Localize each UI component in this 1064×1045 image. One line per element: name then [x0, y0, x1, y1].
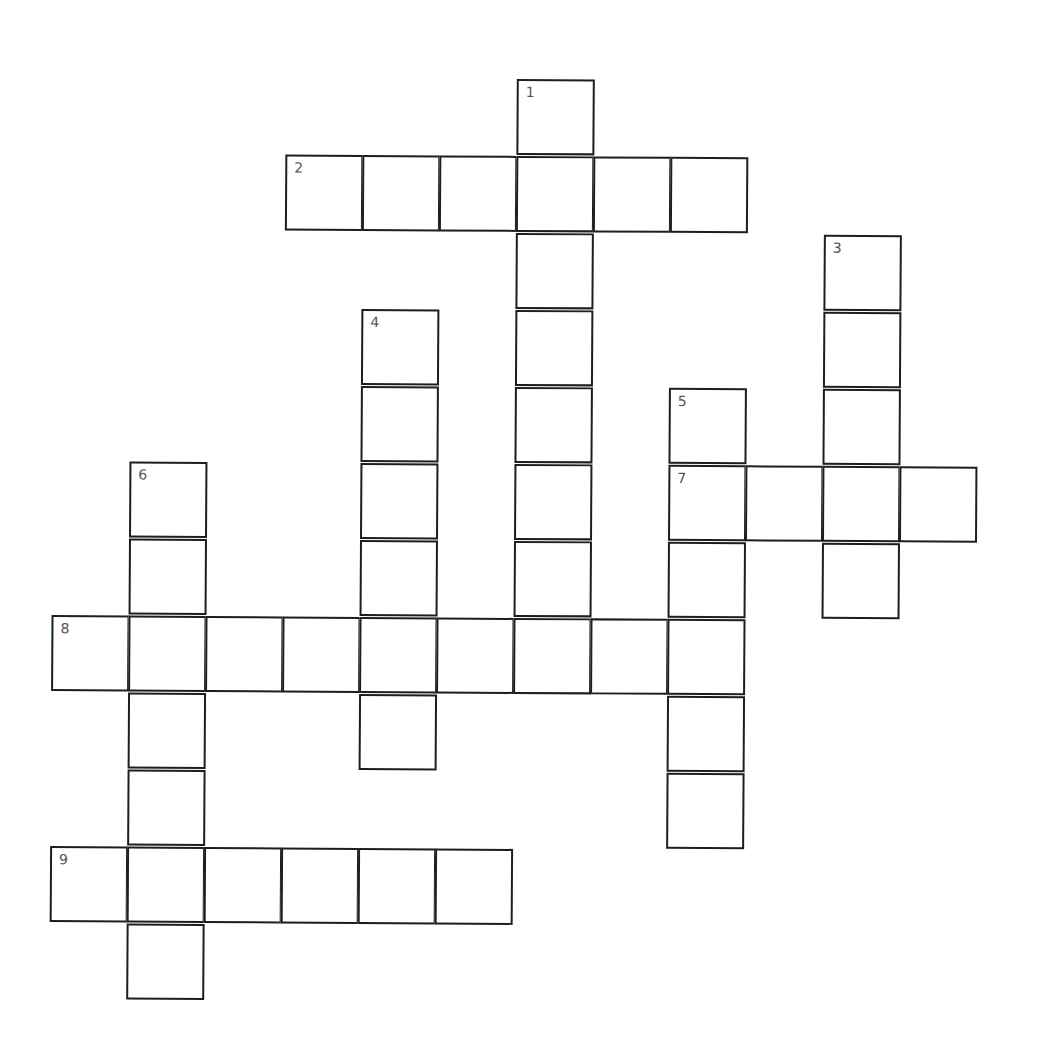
letter-input[interactable]	[592, 620, 666, 692]
grid-cell[interactable]	[128, 693, 206, 769]
letter-input[interactable]	[363, 311, 437, 383]
letter-input[interactable]	[131, 464, 205, 536]
letter-input[interactable]	[283, 849, 357, 921]
letter-input[interactable]	[206, 849, 280, 921]
letter-input[interactable]	[129, 849, 203, 921]
grid-cell[interactable]	[668, 542, 746, 618]
grid-cell[interactable]	[514, 464, 592, 540]
letter-input[interactable]	[672, 159, 746, 231]
letter-input[interactable]	[361, 696, 435, 768]
letter-input[interactable]	[824, 391, 898, 463]
grid-cell[interactable]	[515, 310, 593, 386]
crossword-grid: 278913456	[0, 0, 1064, 1045]
letter-input[interactable]	[131, 541, 205, 613]
grid-cell[interactable]	[822, 389, 900, 465]
letter-input[interactable]	[362, 465, 436, 537]
letter-input[interactable]	[287, 157, 361, 229]
grid-cell[interactable]	[359, 617, 437, 693]
grid-cell[interactable]: 9	[50, 846, 128, 922]
letter-input[interactable]	[129, 772, 203, 844]
grid-cell[interactable]	[590, 618, 668, 694]
grid-cell[interactable]: 7	[668, 465, 746, 541]
letter-input[interactable]	[516, 466, 590, 538]
grid-cell[interactable]	[126, 924, 204, 1000]
letter-input[interactable]	[670, 390, 744, 462]
letter-input[interactable]	[438, 619, 512, 691]
letter-input[interactable]	[130, 695, 204, 767]
grid-cell[interactable]	[129, 539, 207, 615]
grid-cell[interactable]	[128, 616, 206, 692]
grid-cell[interactable]	[205, 616, 283, 692]
letter-input[interactable]	[360, 850, 434, 922]
letter-input[interactable]	[518, 81, 592, 153]
letter-input[interactable]	[824, 545, 898, 617]
letter-input[interactable]	[668, 775, 742, 847]
letter-input[interactable]	[362, 542, 436, 614]
grid-cell[interactable]	[667, 696, 745, 772]
grid-cell[interactable]	[439, 155, 517, 231]
grid-cell[interactable]	[823, 312, 901, 388]
letter-input[interactable]	[518, 158, 592, 230]
grid-cell[interactable]	[515, 233, 593, 309]
grid-cell[interactable]	[359, 694, 437, 770]
letter-input[interactable]	[517, 235, 591, 307]
grid-cell[interactable]: 8	[51, 615, 129, 691]
grid-cell[interactable]	[670, 157, 748, 233]
grid-cell[interactable]	[360, 386, 438, 462]
letter-input[interactable]	[670, 467, 744, 539]
letter-input[interactable]	[53, 617, 127, 689]
grid-cell[interactable]	[514, 541, 592, 617]
letter-input[interactable]	[364, 157, 438, 229]
letter-input[interactable]	[825, 314, 899, 386]
letter-input[interactable]	[362, 388, 436, 460]
letter-input[interactable]	[437, 850, 511, 922]
grid-cell[interactable]: 2	[285, 154, 363, 230]
grid-cell[interactable]	[516, 156, 594, 232]
letter-input[interactable]	[517, 312, 591, 384]
letter-input[interactable]	[207, 618, 281, 690]
letter-input[interactable]	[130, 618, 204, 690]
grid-cell[interactable]	[360, 463, 438, 539]
grid-cell[interactable]	[822, 466, 900, 542]
letter-input[interactable]	[441, 157, 515, 229]
letter-input[interactable]	[669, 698, 743, 770]
grid-cell[interactable]	[281, 847, 359, 923]
grid-cell[interactable]	[358, 848, 436, 924]
grid-cell[interactable]	[593, 156, 671, 232]
letter-input[interactable]	[901, 468, 975, 540]
letter-input[interactable]	[516, 543, 590, 615]
letter-input[interactable]	[516, 389, 590, 461]
grid-cell[interactable]	[666, 773, 744, 849]
grid-cell[interactable]	[282, 616, 360, 692]
letter-input[interactable]	[595, 158, 669, 230]
letter-input[interactable]	[670, 544, 744, 616]
grid-cell[interactable]	[436, 617, 514, 693]
grid-cell[interactable]	[360, 540, 438, 616]
grid-cell[interactable]: 6	[129, 462, 207, 538]
grid-cell[interactable]	[127, 847, 205, 923]
grid-cell[interactable]	[899, 466, 977, 542]
letter-input[interactable]	[825, 237, 899, 309]
letter-input[interactable]	[824, 468, 898, 540]
grid-cell[interactable]	[127, 770, 205, 846]
letter-input[interactable]	[284, 619, 358, 691]
grid-cell[interactable]: 4	[361, 309, 439, 385]
grid-cell[interactable]	[435, 848, 513, 924]
grid-cell[interactable]	[362, 155, 440, 231]
grid-cell[interactable]	[513, 618, 591, 694]
grid-cell[interactable]	[204, 847, 282, 923]
grid-cell[interactable]	[745, 465, 823, 541]
letter-input[interactable]	[669, 621, 743, 693]
letter-input[interactable]	[52, 848, 126, 920]
grid-cell[interactable]: 1	[516, 79, 594, 155]
grid-cell[interactable]	[667, 619, 745, 695]
letter-input[interactable]	[515, 620, 589, 692]
letter-input[interactable]	[128, 926, 202, 998]
grid-cell[interactable]	[822, 543, 900, 619]
letter-input[interactable]	[361, 619, 435, 691]
letter-input[interactable]	[747, 467, 821, 539]
grid-cell[interactable]	[514, 387, 592, 463]
grid-cell[interactable]: 5	[668, 388, 746, 464]
grid-cell[interactable]: 3	[823, 235, 901, 311]
